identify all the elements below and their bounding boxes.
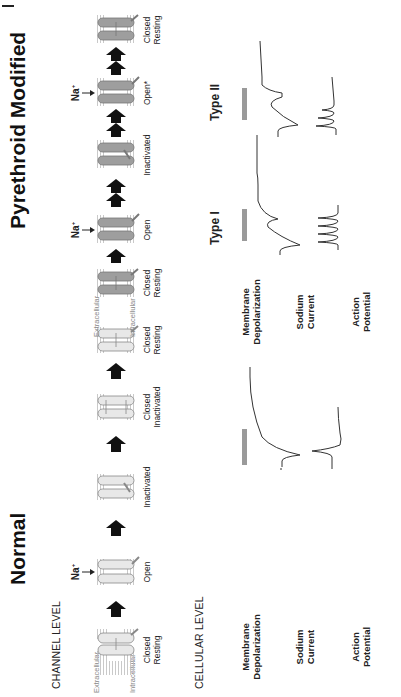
pyrethroid-traces: [0, 0, 401, 697]
figure-canvas: Normal Pyrethroid Modified CHANNEL LEVEL…: [0, 0, 401, 697]
